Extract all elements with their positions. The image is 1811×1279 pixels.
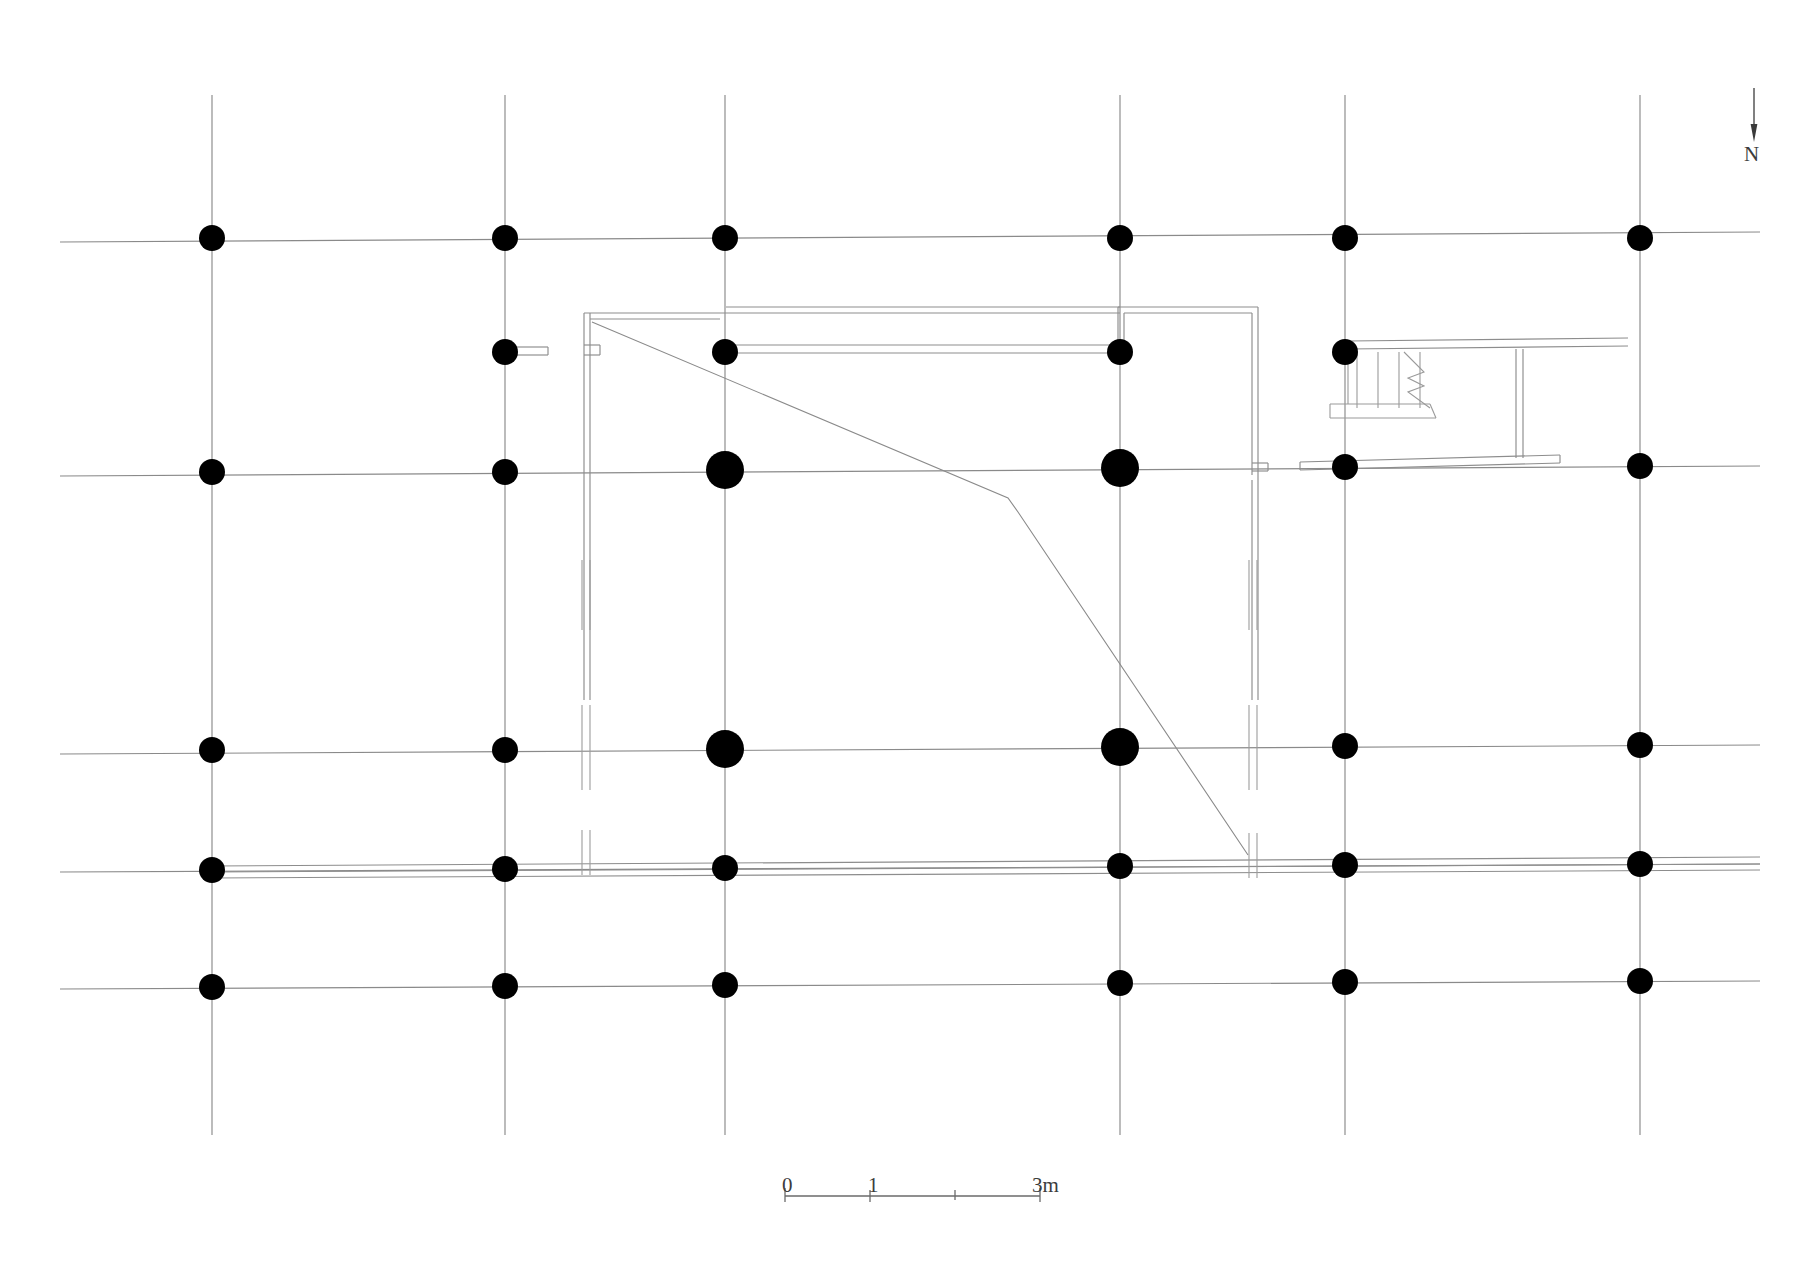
- column: [492, 737, 518, 763]
- column-large: [706, 730, 744, 768]
- column: [712, 855, 738, 881]
- column: [199, 737, 225, 763]
- column: [712, 225, 738, 251]
- walls: [212, 307, 1760, 878]
- wall-row4-spine: [212, 857, 1760, 878]
- column: [1627, 453, 1653, 479]
- column: [1107, 339, 1133, 365]
- column: [492, 459, 518, 485]
- wall-right-room: [1118, 307, 1258, 700]
- column: [492, 856, 518, 882]
- column: [492, 225, 518, 251]
- column: [712, 339, 738, 365]
- grid-lines-vertical: [212, 95, 1640, 1135]
- column: [1332, 733, 1358, 759]
- column: [1107, 970, 1133, 996]
- floor-plan-sheet: N 0 1 3m: [0, 0, 1811, 1279]
- column: [1107, 853, 1133, 879]
- scale-label-0: 0: [782, 1173, 793, 1198]
- wall-left-room: [584, 313, 726, 700]
- floor-plan-drawing: [0, 0, 1811, 1279]
- column: [1627, 968, 1653, 994]
- north-arrow-icon: [1751, 88, 1758, 142]
- north-label: N: [1744, 142, 1759, 167]
- column: [1627, 225, 1653, 251]
- column: [1332, 454, 1358, 480]
- column: [199, 857, 225, 883]
- column: [492, 339, 518, 365]
- wall-top-spine: [720, 307, 1126, 353]
- columns: [199, 225, 1653, 1000]
- column-large: [1101, 449, 1139, 487]
- hidden-wall-left: [582, 560, 590, 875]
- column: [199, 225, 225, 251]
- column: [1107, 225, 1133, 251]
- column: [1332, 969, 1358, 995]
- column: [1332, 225, 1358, 251]
- hidden-wall-right: [1249, 560, 1257, 878]
- stair-treads: [1357, 352, 1420, 408]
- column: [199, 459, 225, 485]
- column: [712, 972, 738, 998]
- column: [1627, 851, 1653, 877]
- column: [1627, 732, 1653, 758]
- column: [199, 974, 225, 1000]
- column: [1332, 852, 1358, 878]
- column: [1332, 339, 1358, 365]
- scale-bar-icon: [785, 1188, 1040, 1202]
- column-large: [1101, 728, 1139, 766]
- column-large: [706, 451, 744, 489]
- scale-label-1: 1: [868, 1173, 879, 1198]
- scale-label-3m: 3m: [1032, 1173, 1059, 1198]
- wall-stair-enclosure: [1348, 338, 1628, 458]
- stair-break-line: [1404, 352, 1430, 408]
- hidden-wall-segments: [582, 560, 1257, 878]
- column: [492, 973, 518, 999]
- wall-stub-left: [516, 347, 548, 355]
- structural-grid: [60, 95, 1760, 1135]
- diagonal-sightline: [592, 322, 1248, 855]
